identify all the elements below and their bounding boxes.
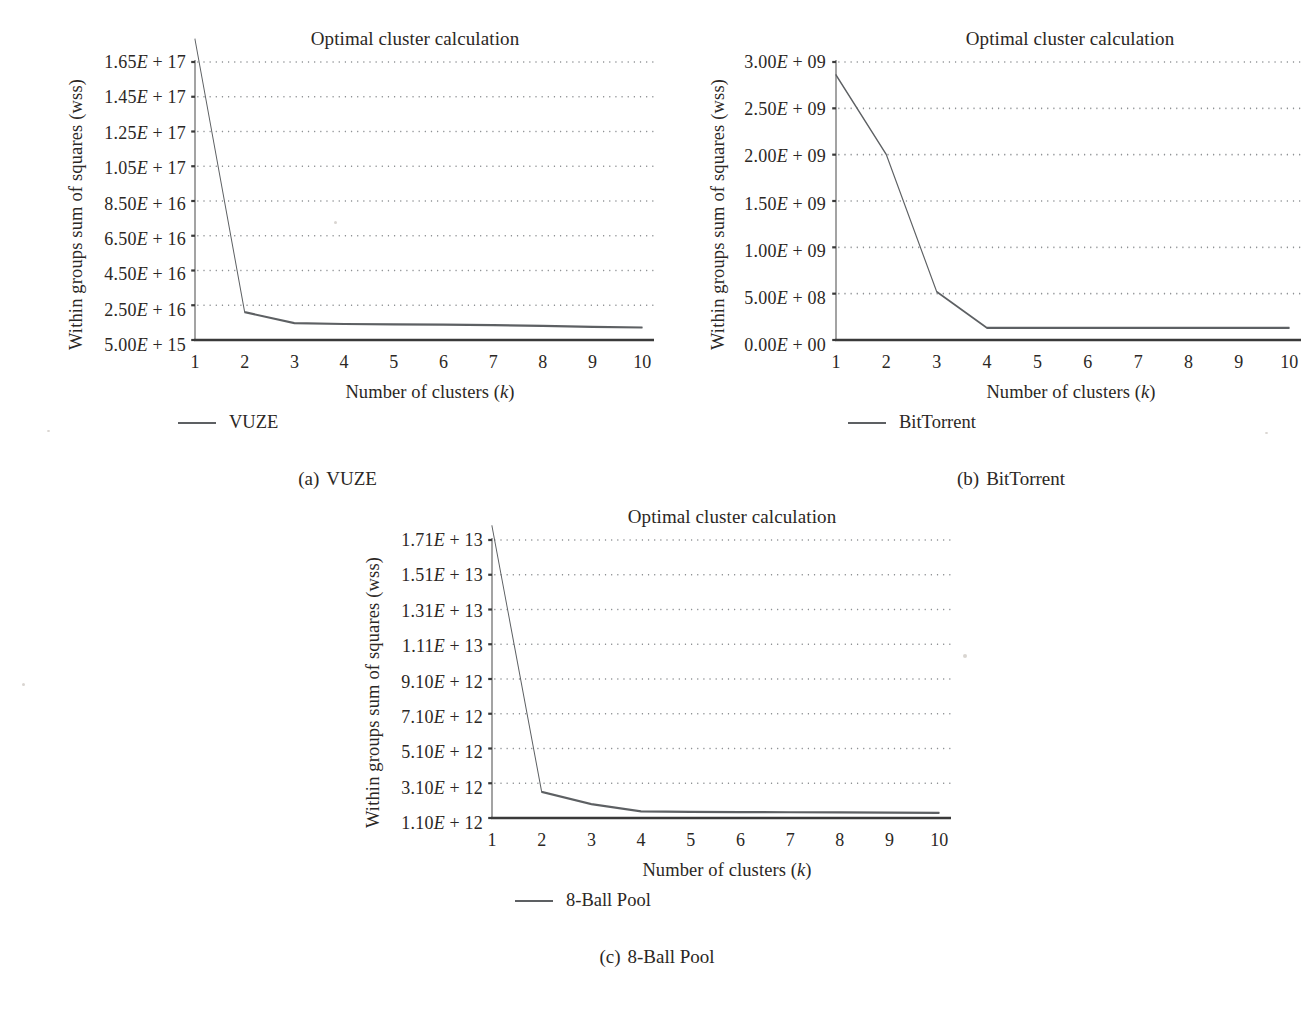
x-axis-title-c: Number of clusters (k) [492, 860, 962, 881]
x-tick-label: 3 [932, 352, 941, 373]
x-tick-labels-a: 12345678910 [0, 0, 660, 400]
x-tick-label: 6 [439, 352, 448, 373]
legend-c: 8-Ball Pool [515, 890, 651, 911]
subcaption-b: (b)BitTorrent [846, 468, 1176, 490]
x-tick-label: 9 [885, 830, 894, 851]
x-tick-label: 1 [832, 352, 841, 373]
x-axis-title-b: Number of clusters (k) [836, 382, 1306, 403]
figure-panel-b: Optimal cluster calculation Within group… [660, 0, 1313, 500]
legend-line-swatch-c [515, 900, 553, 902]
subcaption-text-c: 8-Ball Pool [628, 946, 715, 967]
subcaption-tag-c: (c) [599, 946, 620, 967]
legend-line-swatch-b [848, 422, 886, 424]
figure-panel-c: Optimal cluster calculation Within group… [297, 498, 1297, 1016]
figure-panel-a: Optimal cluster calculation Within group… [0, 0, 660, 500]
subcaption-a: (a)VUZE [195, 468, 480, 490]
legend-a: VUZE [178, 412, 278, 433]
x-tick-label: 8 [1184, 352, 1193, 373]
x-tick-label: 8 [538, 352, 547, 373]
x-axis-title-a: Number of clusters (k) [195, 382, 665, 403]
x-tick-label: 9 [588, 352, 597, 373]
x-tick-label: 5 [686, 830, 695, 851]
x-tick-label: 6 [1083, 352, 1092, 373]
subcaption-text-a: VUZE [326, 468, 377, 489]
x-tick-label: 6 [736, 830, 745, 851]
x-tick-label: 3 [290, 352, 299, 373]
subcaption-tag-b: (b) [957, 468, 979, 489]
x-tick-label: 2 [537, 830, 546, 851]
x-tick-label: 7 [1134, 352, 1143, 373]
x-tick-label: 10 [633, 352, 651, 373]
x-tick-label: 5 [389, 352, 398, 373]
legend-line-swatch-a [178, 422, 216, 424]
x-tick-label: 7 [786, 830, 795, 851]
x-tick-label: 10 [930, 830, 948, 851]
subcaption-text-b: BitTorrent [986, 468, 1065, 489]
x-tick-labels-b: 12345678910 [660, 0, 1313, 400]
x-tick-label: 1 [488, 830, 497, 851]
x-tick-label: 2 [882, 352, 891, 373]
x-tick-label: 10 [1280, 352, 1298, 373]
scan-speckle [22, 683, 25, 686]
x-tick-label: 3 [587, 830, 596, 851]
legend-label-b: BitTorrent [899, 412, 976, 433]
x-tick-label: 4 [637, 830, 646, 851]
x-tick-label: 9 [1234, 352, 1243, 373]
x-tick-label: 4 [983, 352, 992, 373]
legend-label-a: VUZE [229, 412, 278, 433]
legend-label-c: 8-Ball Pool [566, 890, 651, 911]
x-tick-label: 7 [489, 352, 498, 373]
x-tick-label: 8 [835, 830, 844, 851]
x-tick-label: 5 [1033, 352, 1042, 373]
x-tick-label: 4 [340, 352, 349, 373]
x-tick-label: 1 [191, 352, 200, 373]
subcaption-c: (c)8-Ball Pool [492, 946, 822, 968]
x-tick-label: 2 [240, 352, 249, 373]
subcaption-tag-a: (a) [298, 468, 319, 489]
legend-b: BitTorrent [848, 412, 976, 433]
x-tick-labels-c: 12345678910 [297, 498, 1297, 898]
